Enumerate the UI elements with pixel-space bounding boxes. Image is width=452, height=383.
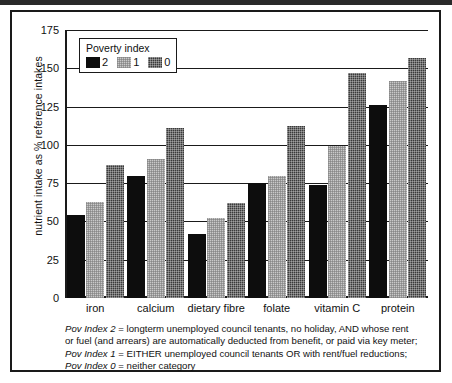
- footnote-text-2-cont: or fuel (and arrears) are automatically …: [65, 335, 417, 346]
- footnote-key-0: Pov Index 0: [65, 360, 116, 371]
- x-tick-label: dietary fibre: [188, 302, 245, 314]
- bar: [106, 165, 124, 298]
- legend-entry-label: 2: [102, 57, 108, 68]
- bar: [227, 203, 245, 298]
- bar: [369, 105, 387, 298]
- x-tick-label: folate: [263, 302, 290, 314]
- bar: [147, 159, 165, 298]
- bar: [389, 81, 407, 298]
- footnote-key-1: Pov Index 1: [65, 348, 116, 359]
- scan-artefact-bottom-bar: [0, 378, 452, 383]
- dark-grey-checker-swatch: [148, 57, 162, 68]
- figure-frame: nutrient intake as % reference intakes 0…: [10, 10, 441, 372]
- x-tick-label: iron: [86, 302, 104, 314]
- bar: [268, 176, 286, 299]
- figure-footnote: Pov Index 2 = longterm unemployed counci…: [65, 323, 435, 373]
- plot-area: 0255075100125150175 Poverty index 210: [65, 30, 428, 298]
- y-tick-label: 0: [53, 292, 59, 304]
- legend-entry-label: 0: [164, 57, 170, 68]
- bar: [86, 202, 104, 298]
- legend-entry: 2: [86, 57, 108, 68]
- figure-page: nutrient intake as % reference intakes 0…: [0, 0, 452, 383]
- y-tick-label: 25: [47, 254, 59, 266]
- bar: [166, 128, 184, 298]
- bar: [408, 58, 426, 298]
- y-tick-label: 75: [47, 177, 59, 189]
- footnote-text-1: = EITHER unemployed council tenants OR w…: [116, 348, 407, 359]
- chart-legend: Poverty index 210: [79, 38, 177, 73]
- footnote-line-2: or fuel (and arrears) are automatically …: [65, 335, 435, 347]
- bar: [67, 215, 85, 298]
- y-tick-label: 100: [41, 139, 59, 151]
- legend-entries: 210: [86, 57, 170, 68]
- footnote-line-1: Pov Index 2 = longterm unemployed counci…: [65, 323, 435, 335]
- bar: [309, 185, 327, 298]
- bar: [328, 146, 346, 298]
- bar: [248, 183, 266, 298]
- legend-title: Poverty index: [86, 42, 170, 54]
- light-grey-checker-swatch: [117, 57, 131, 68]
- bar: [207, 218, 225, 298]
- footnote-text-0: = neither category: [116, 360, 196, 371]
- y-tick-label: 50: [47, 215, 59, 227]
- bar: [287, 126, 305, 298]
- solid-black-swatch: [86, 57, 100, 68]
- bar: [188, 234, 206, 298]
- legend-entry-label: 1: [133, 57, 139, 68]
- footnote-line-3: Pov Index 1 = EITHER unemployed council …: [65, 348, 435, 360]
- footnote-key-2: Pov Index 2: [65, 323, 116, 334]
- footnote-text-2: = longterm unemployed council tenants, n…: [116, 323, 409, 334]
- legend-entry: 0: [148, 57, 170, 68]
- x-tick-label: protein: [381, 302, 415, 314]
- bar: [127, 176, 145, 299]
- gridline: [65, 30, 428, 31]
- bar: [348, 73, 366, 298]
- x-tick-label: vitamin C: [314, 302, 360, 314]
- scan-artefact-top-bar: [0, 0, 452, 5]
- footnote-line-4: Pov Index 0 = neither category: [65, 360, 435, 372]
- x-tick-label: calcium: [137, 302, 174, 314]
- legend-entry: 1: [117, 57, 139, 68]
- y-tick-label: 125: [41, 101, 59, 113]
- y-tick-label: 175: [41, 24, 59, 36]
- y-tick-label: 150: [41, 62, 59, 74]
